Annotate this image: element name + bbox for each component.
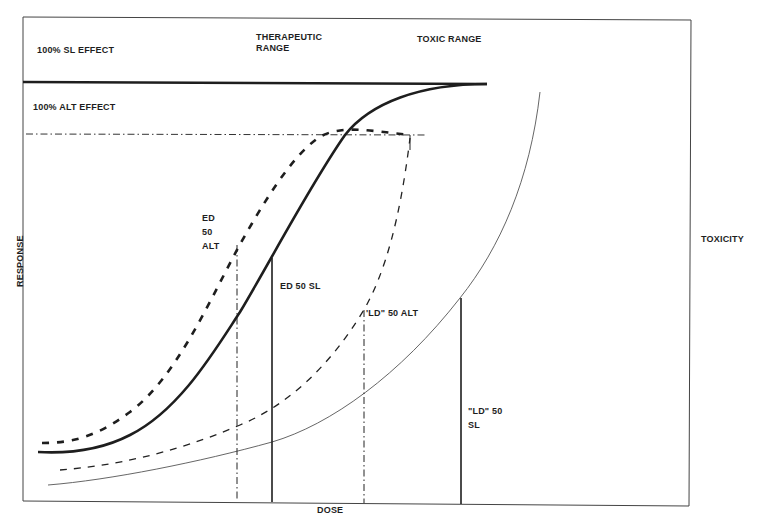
ed50-sl-label: ED 50 SL: [280, 281, 321, 292]
therapeutic-range-line1: THERAPEUTIC: [256, 32, 322, 43]
therapeutic-range-line2: RANGE: [256, 43, 322, 54]
ed50-alt-label: ED 50 ALT: [202, 211, 219, 253]
ed50-alt-label-line3: ALT: [202, 239, 219, 253]
y2-axis-label-toxicity: TOXICITY: [701, 234, 744, 245]
x-axis-label-dose: DOSE: [317, 505, 343, 516]
sl-100-effect-line: [23, 82, 487, 84]
alt-100-effect-line: [26, 134, 426, 135]
ed50-alt-label-line2: 50: [202, 225, 219, 239]
ld50-sl-label-line1: "LD" 50: [468, 404, 502, 418]
ld50-alt-label: 'LD" 50 ALT: [366, 308, 418, 319]
toxic-range-label: TOXIC RANGE: [417, 34, 482, 45]
y-axis-label-response: RESPONSE: [15, 235, 26, 287]
alt-100-effect-label: 100% ALT EFFECT: [33, 102, 116, 113]
therapeutic-range-label: THERAPEUTIC RANGE: [256, 32, 322, 54]
dose-response-diagram: 100% SL EFFECT 100% ALT EFFECT THERAPEUT…: [0, 0, 762, 529]
ed50-alt-label-line1: ED: [202, 211, 219, 225]
ld50-sl-label: "LD" 50 SL: [468, 404, 502, 432]
plot-frame: [23, 17, 691, 506]
alt-effect-curve: [42, 130, 410, 443]
diagram-canvas: [0, 0, 762, 529]
sl-100-effect-label: 100% SL EFFECT: [37, 45, 114, 56]
sl-effect-curve: [38, 84, 487, 452]
alt-toxicity-curve: [60, 138, 410, 470]
ld50-sl-label-line2: SL: [468, 418, 502, 432]
